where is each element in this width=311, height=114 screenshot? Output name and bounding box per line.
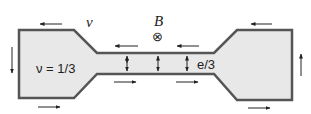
velocity-label: v bbox=[86, 14, 93, 30]
charge-label: e/3 bbox=[197, 57, 215, 72]
hall-bar-diagram: v B ⊗ ν = 1/3 e/3 bbox=[0, 0, 311, 114]
field-label: B bbox=[154, 13, 163, 29]
filling-factor-label: ν = 1/3 bbox=[36, 61, 75, 76]
field-direction-symbol: ⊗ bbox=[152, 29, 163, 44]
